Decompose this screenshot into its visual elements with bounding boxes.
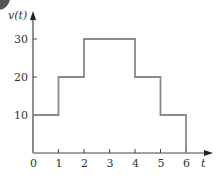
step-chart: v(t) 10 20 30 0 1 2 3 4 5 6 t xyxy=(0,0,220,178)
x-tick-label-5: 5 xyxy=(158,157,165,170)
x-tick-label-4: 4 xyxy=(132,157,139,170)
x-axis-arrow-icon xyxy=(204,150,213,156)
x-tick-label-3: 3 xyxy=(107,157,114,170)
x-axis-label: t xyxy=(201,157,206,170)
y-tick-label-30: 30 xyxy=(14,33,28,46)
y-tick-label-20: 20 xyxy=(14,71,28,84)
signal-step-line xyxy=(33,39,186,153)
y-axis-label: v(t) xyxy=(8,9,27,22)
x-tick-label-0: 0 xyxy=(30,157,37,170)
x-tick-label-2: 2 xyxy=(81,157,88,170)
y-tick-label-10: 10 xyxy=(14,109,28,122)
x-tick-label-1: 1 xyxy=(56,157,63,170)
x-tick-label-6: 6 xyxy=(183,157,190,170)
y-axis-arrow-icon xyxy=(30,11,36,20)
